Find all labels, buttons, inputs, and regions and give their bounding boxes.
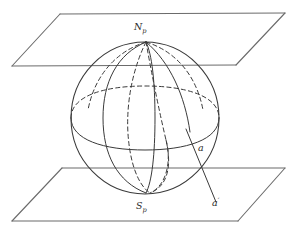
label-line-a-base: a <box>198 142 204 153</box>
bottom-plane-right-edge <box>238 168 285 221</box>
label-north-pole: Np <box>133 21 147 35</box>
top-plane-left-edge <box>12 14 60 66</box>
meridian-tilted-back-dashed <box>146 42 169 193</box>
label-line-a-prime: a′ <box>212 196 220 208</box>
figure-container: Np Sp a a′ <box>0 0 297 230</box>
equator-front-arc <box>71 118 219 150</box>
top-plane-right-edge <box>236 13 285 65</box>
label-north-pole-subscript: p <box>142 27 147 35</box>
geometry-diagram: Np Sp a a′ <box>0 0 297 230</box>
top-plane-back-edge <box>60 13 285 14</box>
secant-line-group <box>186 129 216 202</box>
meridian-tilted-secondary-dashed <box>128 42 150 193</box>
label-line-a: a <box>198 142 204 153</box>
bottom-plane-left-edge <box>12 168 62 221</box>
label-south-pole: Sp <box>136 200 148 214</box>
meridian-front-left-solid <box>103 42 146 193</box>
top-plane-front-edge <box>12 65 236 66</box>
bottom-plane <box>12 168 285 221</box>
meridian-outer-back-left-dashed <box>88 42 146 110</box>
secant-line-a-aprime <box>186 129 216 202</box>
label-line-a-prime-mark: ′ <box>218 196 220 205</box>
label-south-pole-subscript: p <box>143 206 148 214</box>
